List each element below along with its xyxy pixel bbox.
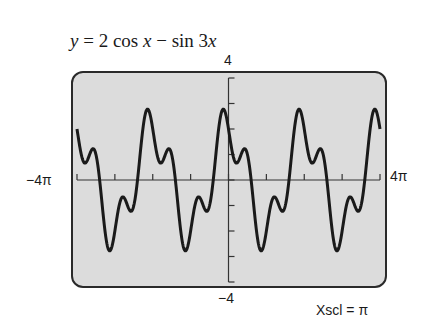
- plot-area: [0, 0, 436, 332]
